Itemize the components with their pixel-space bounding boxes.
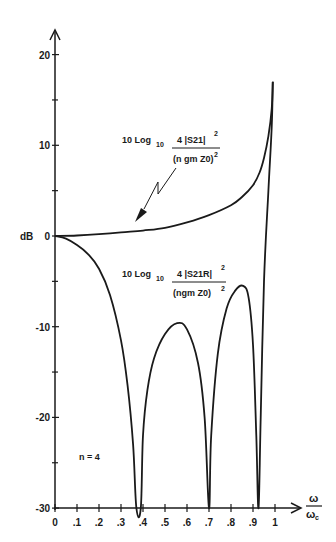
svg-text:(ngm Z0): (ngm Z0) bbox=[173, 288, 211, 298]
svg-text:10 Log: 10 Log bbox=[122, 269, 151, 279]
y-tick-label: 0 bbox=[44, 231, 50, 242]
x-tick-label: .6 bbox=[183, 517, 192, 528]
series-s21-curve bbox=[55, 82, 273, 236]
x-tick-label: .4 bbox=[139, 517, 148, 528]
x-tick-label: .1 bbox=[73, 517, 82, 528]
y-tick-label: 20 bbox=[39, 50, 51, 61]
svg-text:(n gm Z0): (n gm Z0) bbox=[173, 154, 214, 164]
x-tick-label: .9 bbox=[249, 517, 258, 528]
lower-curve-label: 10 Log 10 4 |S21R| 2 (ngm Z0) 2 bbox=[122, 264, 226, 298]
svg-text:10: 10 bbox=[156, 275, 164, 282]
svg-text:ω: ω bbox=[309, 492, 318, 504]
upper-curve-label: 10 Log 10 4 |S21| 2 (n gm Z0) 2 bbox=[122, 130, 220, 164]
svg-text:ω: ω bbox=[306, 508, 315, 520]
svg-text:10: 10 bbox=[156, 141, 164, 148]
svg-text:4 |S21|: 4 |S21| bbox=[177, 135, 206, 145]
axes bbox=[50, 30, 301, 513]
x-tick-label: .5 bbox=[161, 517, 170, 528]
y-tick-label: -10 bbox=[36, 322, 51, 333]
svg-text:2: 2 bbox=[214, 151, 218, 158]
x-tick-label: .7 bbox=[205, 517, 214, 528]
x-tick-label: 0 bbox=[52, 517, 58, 528]
x-tick-label: .3 bbox=[117, 517, 126, 528]
y-tick-label: -20 bbox=[36, 412, 51, 423]
x-tick-label: .2 bbox=[95, 517, 104, 528]
svg-text:2: 2 bbox=[214, 130, 218, 137]
svg-text:2: 2 bbox=[221, 264, 225, 271]
y-tick-label: -30 bbox=[36, 503, 51, 514]
pointer-arrowhead-icon bbox=[135, 208, 147, 222]
svg-text:c: c bbox=[315, 514, 319, 521]
y-tick-label: 10 bbox=[39, 140, 51, 151]
upper-curve-pointer-arrow bbox=[144, 168, 176, 209]
svg-text:2: 2 bbox=[221, 285, 225, 292]
n-order-label: n = 4 bbox=[79, 452, 100, 462]
y-axis-label: dB bbox=[20, 231, 33, 242]
x-tick-label: 1 bbox=[272, 517, 278, 528]
svg-text:10 Log: 10 Log bbox=[122, 135, 151, 145]
chart: 20100-10-20-30 0.1.2.3.4.5.6.7.8.91 dB ω… bbox=[0, 0, 336, 542]
x-tick-label: .8 bbox=[227, 517, 236, 528]
x-axis-label: ω ω c bbox=[306, 492, 322, 521]
svg-text:4 |S21R|: 4 |S21R| bbox=[177, 269, 212, 279]
